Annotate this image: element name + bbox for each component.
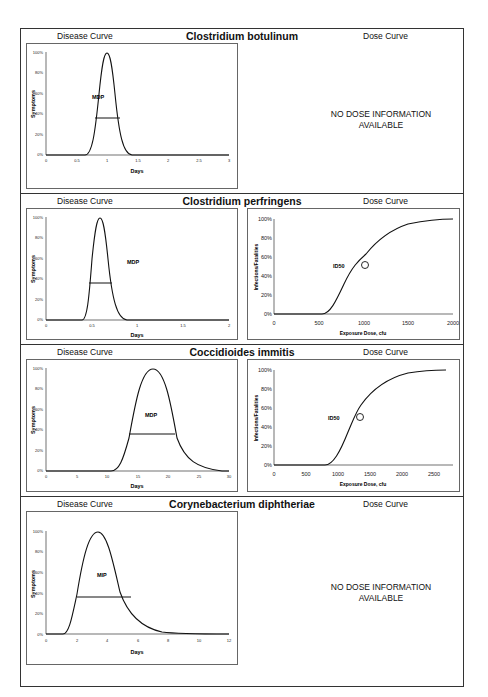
dose-chart: 100%80%60%40%20%0% 05001000150020002500 … bbox=[247, 359, 460, 492]
disease-chart-plot: 100%80%60%40%20%0% 00.511.522.53 Days Sy… bbox=[27, 44, 239, 190]
svg-text:80%: 80% bbox=[35, 549, 43, 554]
svg-text:10: 10 bbox=[197, 638, 202, 643]
svg-text:0%: 0% bbox=[37, 468, 43, 473]
y-axis-label: Symptoms bbox=[30, 406, 36, 434]
svg-text:80%: 80% bbox=[35, 235, 43, 240]
disease-chart: 100%80%60%40%20%0% 024681012 Days Sympto… bbox=[26, 511, 238, 665]
panel-corynebacterium-diphtheriae: Disease Curve Corynebacterium diphtheria… bbox=[21, 497, 463, 687]
svg-text:2: 2 bbox=[167, 158, 170, 163]
svg-text:0: 0 bbox=[45, 638, 48, 643]
dose-chart: 100%80%60%40%20%0% 0500100015002000 Expo… bbox=[247, 208, 460, 340]
svg-text:12: 12 bbox=[227, 638, 232, 643]
y-axis-label: Infections/Fatalities bbox=[253, 394, 259, 441]
svg-text:15: 15 bbox=[136, 474, 141, 479]
panel-clostridium-botulinum: Disease Curve Clostridium botulinum Dose… bbox=[21, 29, 463, 194]
dose-curve-heading: Dose Curve bbox=[363, 196, 408, 206]
svg-text:1000: 1000 bbox=[332, 471, 344, 477]
svg-text:0: 0 bbox=[45, 474, 48, 479]
svg-text:20%: 20% bbox=[261, 443, 272, 449]
svg-text:1: 1 bbox=[136, 323, 139, 328]
svg-text:60%: 60% bbox=[35, 570, 43, 575]
no-dose-message: NO DOSE INFORMATIONAVAILABLE bbox=[311, 109, 451, 131]
panel-coccidioides-immitis: Disease Curve Coccidioides immitis Dose … bbox=[21, 345, 463, 497]
id50-label: ID50 bbox=[333, 263, 345, 269]
svg-text:80%: 80% bbox=[35, 386, 43, 391]
svg-text:100%: 100% bbox=[33, 366, 44, 371]
annotation-label: MIP bbox=[97, 572, 107, 578]
svg-text:0%: 0% bbox=[37, 632, 43, 637]
id50-label: ID50 bbox=[328, 415, 340, 421]
svg-text:2: 2 bbox=[76, 638, 79, 643]
svg-text:20%: 20% bbox=[35, 132, 43, 137]
svg-text:3: 3 bbox=[228, 158, 231, 163]
svg-text:60%: 60% bbox=[261, 405, 272, 411]
svg-text:4: 4 bbox=[106, 638, 109, 643]
svg-text:80%: 80% bbox=[35, 70, 43, 75]
annotation-label: MDP bbox=[145, 412, 158, 418]
svg-text:0: 0 bbox=[45, 158, 48, 163]
y-axis-label: Symptoms bbox=[30, 90, 36, 118]
y-axis-label: Infections/Fatalities bbox=[253, 243, 259, 290]
svg-text:2000: 2000 bbox=[396, 471, 408, 477]
svg-text:30: 30 bbox=[227, 474, 232, 479]
svg-text:2.5: 2.5 bbox=[196, 158, 202, 163]
svg-text:10: 10 bbox=[105, 474, 110, 479]
disease-chart-plot: 100%80%60%40%20%0% 051015202530 Days Sym… bbox=[27, 360, 239, 493]
svg-text:20%: 20% bbox=[35, 297, 43, 302]
svg-text:60%: 60% bbox=[261, 254, 272, 260]
svg-text:2500: 2500 bbox=[428, 471, 440, 477]
svg-text:60%: 60% bbox=[35, 256, 43, 261]
svg-text:0%: 0% bbox=[264, 311, 272, 317]
dose-curve-heading: Dose Curve bbox=[363, 499, 408, 509]
svg-text:0: 0 bbox=[45, 323, 48, 328]
x-axis-label: Days bbox=[130, 483, 143, 489]
svg-text:5: 5 bbox=[76, 474, 79, 479]
dose-chart-plot: 100%80%60%40%20%0% 0500100015002000 Expo… bbox=[248, 209, 461, 341]
svg-text:2: 2 bbox=[228, 323, 231, 328]
svg-text:20%: 20% bbox=[35, 611, 43, 616]
svg-text:0.5: 0.5 bbox=[89, 323, 95, 328]
svg-text:1500: 1500 bbox=[364, 471, 376, 477]
x-axis-label: Exposure Dose, cfu bbox=[340, 481, 387, 487]
svg-text:40%: 40% bbox=[35, 276, 43, 281]
svg-text:40%: 40% bbox=[261, 273, 272, 279]
svg-text:0: 0 bbox=[272, 320, 275, 326]
svg-text:100%: 100% bbox=[33, 529, 44, 534]
svg-text:80%: 80% bbox=[261, 386, 272, 392]
dose-curve-heading: Dose Curve bbox=[363, 31, 408, 41]
svg-text:0.5: 0.5 bbox=[74, 158, 80, 163]
svg-text:0%: 0% bbox=[37, 152, 43, 157]
y-axis-label: Symptoms bbox=[30, 570, 36, 598]
svg-text:0%: 0% bbox=[37, 317, 43, 322]
disease-chart: 100%80%60%40%20%0% 051015202530 Days Sym… bbox=[26, 359, 238, 492]
svg-text:8: 8 bbox=[167, 638, 170, 643]
no-dose-message: NO DOSE INFORMATIONAVAILABLE bbox=[311, 582, 451, 604]
svg-text:60%: 60% bbox=[35, 407, 43, 412]
svg-text:1.5: 1.5 bbox=[135, 158, 141, 163]
svg-text:60%: 60% bbox=[35, 91, 43, 96]
dose-chart-plot: 100%80%60%40%20%0% 05001000150020002500 … bbox=[248, 360, 461, 493]
figure-frame: Disease Curve Clostridium botulinum Dose… bbox=[20, 28, 464, 687]
svg-text:25: 25 bbox=[197, 474, 202, 479]
svg-text:40%: 40% bbox=[35, 591, 43, 596]
svg-text:100%: 100% bbox=[258, 367, 272, 373]
svg-text:20%: 20% bbox=[35, 448, 43, 453]
disease-chart-plot: 100%80%60%40%20%0% 00.511.52 Days Sympto… bbox=[27, 209, 239, 341]
svg-text:40%: 40% bbox=[35, 427, 43, 432]
annotation-label: MDP bbox=[127, 259, 140, 265]
svg-text:100%: 100% bbox=[33, 50, 44, 55]
svg-text:6: 6 bbox=[137, 638, 140, 643]
x-axis-label: Days bbox=[130, 649, 143, 655]
disease-chart-plot: 100%80%60%40%20%0% 024681012 Days Sympto… bbox=[27, 512, 239, 666]
svg-text:500: 500 bbox=[314, 320, 323, 326]
panel-clostridium-perfringens: Disease Curve Clostridium perfringens Do… bbox=[21, 194, 463, 345]
svg-text:80%: 80% bbox=[261, 235, 272, 241]
svg-text:500: 500 bbox=[301, 471, 310, 477]
svg-text:20%: 20% bbox=[261, 292, 272, 298]
svg-text:20: 20 bbox=[166, 474, 171, 479]
svg-text:40%: 40% bbox=[35, 111, 43, 116]
disease-chart: 100%80%60%40%20%0% 00.511.522.53 Days Sy… bbox=[26, 43, 238, 189]
svg-text:2000: 2000 bbox=[447, 320, 459, 326]
x-axis-label: Exposure Dose, cfu bbox=[340, 330, 387, 336]
svg-text:1.5: 1.5 bbox=[180, 323, 186, 328]
